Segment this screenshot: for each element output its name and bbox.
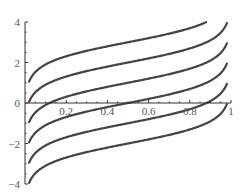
curve-c--1 (29, 84, 227, 163)
y-tick-label: 2 (15, 57, 21, 69)
chart: 0.20.40.60.81 −4−2024 (0, 0, 245, 192)
y-tick-label: −2 (8, 138, 20, 150)
x-tick-label: 0.6 (142, 105, 156, 117)
x-tick-label: 0.2 (59, 105, 73, 117)
y-tick-label: −4 (8, 178, 20, 190)
x-tick-label: 0.8 (183, 105, 197, 117)
x-tick-label: 1 (228, 105, 234, 117)
y-tick-label: 0 (15, 97, 21, 109)
y-ticks: −4−2024 (8, 16, 28, 190)
x-tick-label: 0.4 (101, 105, 115, 117)
y-tick-label: 4 (15, 16, 21, 28)
curve-c-2 (29, 23, 227, 102)
